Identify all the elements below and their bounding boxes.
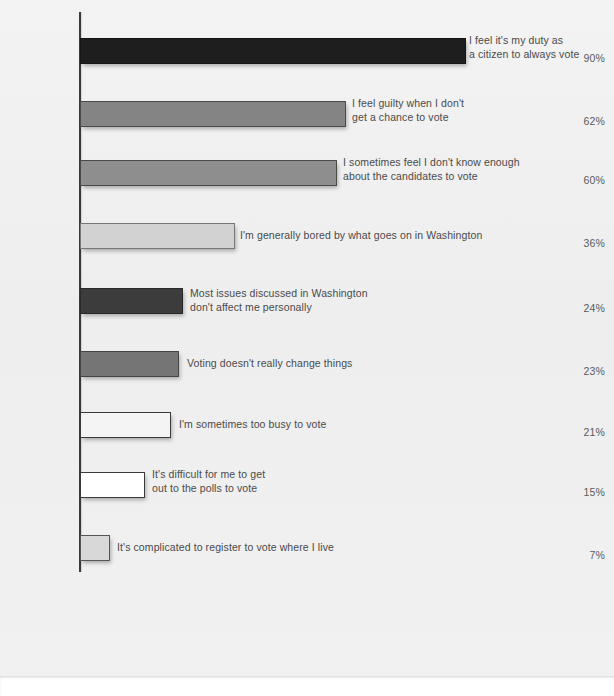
bar[interactable] xyxy=(80,535,110,561)
bar-category-label: It's difficult for me to get out to the … xyxy=(152,468,265,495)
bar-category-label: I sometimes feel I don't know enough abo… xyxy=(343,156,520,183)
bar[interactable] xyxy=(80,160,337,186)
value-label: 23% xyxy=(544,365,614,377)
value-label: 21% xyxy=(544,426,614,438)
bar[interactable] xyxy=(80,288,183,314)
bar[interactable] xyxy=(80,472,145,498)
value-label: 60% xyxy=(544,174,614,186)
bar[interactable] xyxy=(80,412,171,438)
value-label: 36% xyxy=(544,237,614,249)
value-label: 7% xyxy=(544,549,614,561)
bar-category-label: I'm generally bored by what goes on in W… xyxy=(240,229,482,243)
bar-category-label: I feel it's my duty as a citizen to alwa… xyxy=(469,34,579,61)
plot-area: 90% I feel it's my duty as a citizen to … xyxy=(0,0,614,676)
bar[interactable] xyxy=(80,101,346,127)
bar-category-label: It's complicated to register to vote whe… xyxy=(117,541,334,555)
bar-chart-page: 90% I feel it's my duty as a citizen to … xyxy=(0,0,614,696)
bar-category-label: Voting doesn't really change things xyxy=(187,357,352,371)
value-label: 24% xyxy=(544,302,614,314)
bar-category-label: I feel guilty when I don't get a chance … xyxy=(352,97,464,124)
bar[interactable] xyxy=(80,351,179,377)
bar[interactable] xyxy=(80,223,235,249)
bar-category-label: I'm sometimes too busy to vote xyxy=(179,418,326,432)
value-label: 15% xyxy=(544,486,614,498)
bar-category-label: Most issues discussed in Washington don'… xyxy=(190,287,368,314)
page-bottom-edge xyxy=(0,676,614,696)
bar[interactable] xyxy=(80,38,466,64)
value-label: 62% xyxy=(544,115,614,127)
